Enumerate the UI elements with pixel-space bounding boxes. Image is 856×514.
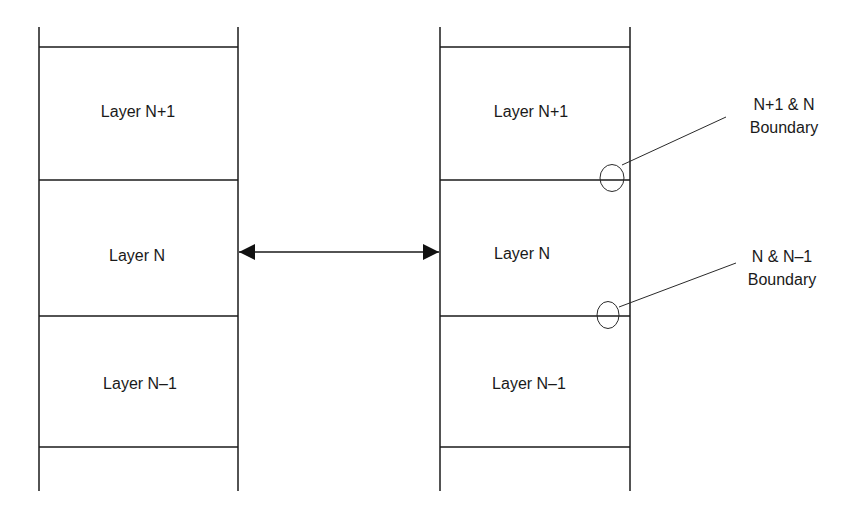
callout-upper-line1: N+1 & N [754,96,815,113]
right-stack: Layer N+1 Layer N Layer N–1 [440,27,630,491]
left-layer-n-minus-1-label: Layer N–1 [103,375,177,392]
right-layer-n-label: Layer N [494,245,550,262]
leader-line [622,117,726,165]
right-layer-n-minus-1-label: Layer N–1 [492,375,566,392]
callout-lower-line1: N & N–1 [752,248,813,265]
left-layer-n-plus-1-label: Layer N+1 [101,103,175,120]
callout-lower-line2: Boundary [748,271,817,288]
boundary-circle-icon [597,302,619,329]
left-layer-n-label: Layer N [109,247,165,264]
left-stack: Layer N+1 Layer N Layer N–1 [39,27,238,491]
layer-diagram: Layer N+1 Layer N Layer N–1 Layer N+1 La… [0,0,856,514]
right-layer-n-plus-1-label: Layer N+1 [494,103,568,120]
callout-upper-boundary: N+1 & N Boundary [600,96,818,192]
boundary-circle-icon [600,165,624,192]
leader-line [619,263,736,307]
callout-upper-line2: Boundary [750,119,819,136]
